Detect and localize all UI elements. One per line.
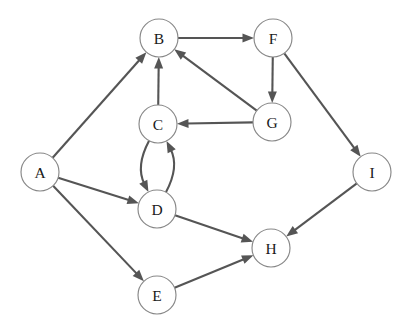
edge-g-to-b-line [182, 55, 257, 110]
nodes-layer: ABCDEFGHI [21, 19, 391, 314]
edge-e-to-h-line [175, 259, 245, 288]
edge-c-to-b [154, 57, 163, 105]
node-a-label: A [34, 164, 46, 181]
edge-f-to-i-line [284, 53, 355, 149]
node-g[interactable]: G [253, 103, 291, 141]
edge-f-to-g-arrowhead [268, 91, 277, 103]
node-d-label: D [151, 201, 162, 218]
edge-g-to-c [177, 119, 253, 128]
edge-e-to-h-arrowhead [241, 255, 253, 264]
graph-canvas: ABCDEFGHI [0, 0, 408, 332]
edge-i-to-h-line [294, 183, 357, 230]
node-c[interactable]: C [139, 105, 177, 143]
node-i-label: I [369, 164, 374, 181]
node-b[interactable]: B [140, 19, 178, 57]
edge-a-to-d-line [58, 178, 129, 201]
edges-layer [53, 34, 361, 288]
node-h[interactable]: H [252, 229, 290, 267]
edge-a-to-d-arrowhead [127, 196, 139, 205]
edge-d-to-h [175, 215, 253, 242]
node-i[interactable]: I [353, 153, 391, 191]
node-a[interactable]: A [21, 153, 59, 191]
edge-b-to-f-arrowhead [243, 34, 255, 43]
edge-i-to-h [286, 183, 357, 236]
edge-f-to-i-arrowhead [350, 145, 360, 157]
directed-graph-diagram: ABCDEFGHI [0, 0, 408, 332]
node-e-label: E [152, 287, 161, 304]
edge-c-to-d [139, 141, 149, 192]
node-b-label: B [154, 30, 164, 47]
edge-a-to-b-line [53, 60, 140, 158]
edge-d-to-c-arrowhead [167, 141, 176, 153]
node-e[interactable]: E [138, 276, 176, 314]
edge-d-to-c-curve [166, 149, 174, 192]
edge-i-to-h-arrowhead [286, 226, 298, 237]
edge-e-to-h [175, 255, 254, 288]
node-f[interactable]: F [254, 19, 292, 57]
edge-g-to-c-line [187, 122, 253, 123]
edge-f-to-i [284, 53, 360, 156]
node-c-label: C [153, 116, 163, 133]
edge-g-to-b-arrowhead [174, 49, 186, 59]
edge-b-to-f [178, 34, 254, 43]
edge-d-to-h-line [175, 215, 244, 239]
edge-d-to-h-arrowhead [241, 234, 253, 243]
edge-a-to-d [58, 178, 139, 204]
edge-d-to-c [166, 141, 176, 192]
node-f-label: F [269, 30, 278, 47]
edge-a-to-b [53, 52, 147, 158]
edge-g-to-b [174, 49, 257, 110]
edge-c-to-d-arrowhead [139, 180, 148, 192]
node-g-label: G [266, 114, 277, 131]
node-d[interactable]: D [138, 190, 176, 228]
node-h-label: H [265, 240, 276, 257]
edge-c-to-d-curve [141, 141, 149, 184]
edge-g-to-c-arrowhead [177, 119, 189, 128]
edge-f-to-g [268, 57, 277, 103]
edge-c-to-b-arrowhead [154, 57, 163, 69]
